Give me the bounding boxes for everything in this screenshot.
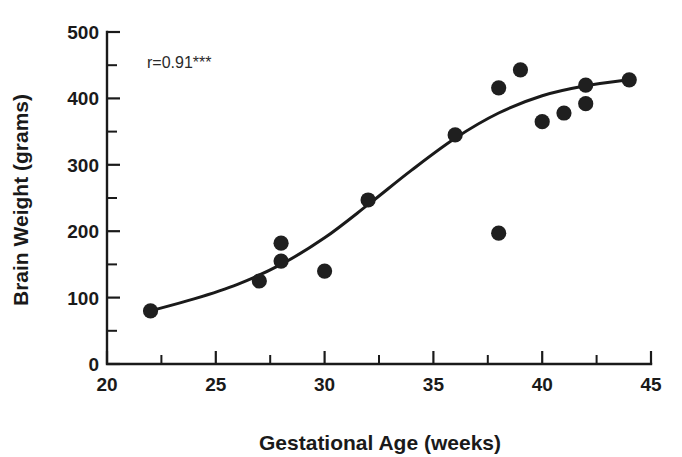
y-tick-label-0: 0	[88, 354, 99, 375]
x-tick-label-40: 40	[532, 374, 553, 395]
y-tick-label-100: 100	[67, 288, 99, 309]
data-point	[578, 96, 593, 111]
x-tick-label-45: 45	[640, 374, 662, 395]
chart-canvas: Brain Weight (grams) Gestational Age (we…	[0, 0, 682, 457]
y-tick-label-500: 500	[67, 22, 99, 43]
data-point	[491, 226, 506, 241]
y-axis-title: Brain Weight (grams)	[9, 94, 32, 306]
data-point	[622, 72, 637, 87]
brain-weight-scatter-figure: Brain Weight (grams) Gestational Age (we…	[0, 0, 682, 457]
x-tick-label-20: 20	[96, 374, 117, 395]
data-point	[361, 192, 376, 207]
y-tick-label-300: 300	[67, 155, 99, 176]
x-tick-label-35: 35	[423, 374, 445, 395]
data-point	[273, 236, 288, 251]
data-point	[513, 62, 528, 77]
data-point	[143, 303, 158, 318]
y-tick-label-200: 200	[67, 221, 99, 242]
data-point	[317, 263, 332, 278]
y-tick-label-400: 400	[67, 88, 99, 109]
data-point	[273, 253, 288, 268]
data-point	[556, 105, 571, 120]
data-point	[491, 80, 506, 95]
data-point	[448, 127, 463, 142]
x-axis-title: Gestational Age (weeks)	[259, 431, 501, 454]
data-point	[578, 78, 593, 93]
data-point	[535, 114, 550, 129]
x-tick-label-30: 30	[314, 374, 335, 395]
correlation-annotation: r=0.91***	[147, 54, 212, 71]
data-point	[252, 273, 267, 288]
x-tick-label-25: 25	[205, 374, 227, 395]
